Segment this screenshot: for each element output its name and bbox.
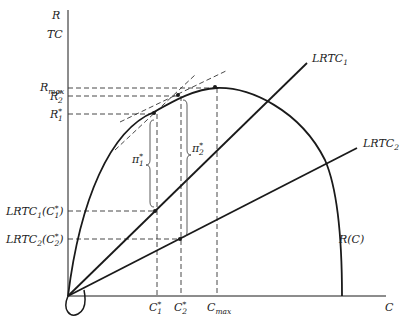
lrtc2-c2-label: LRTC2(C*2): [5, 232, 63, 248]
pi1-star-label: π*1: [131, 152, 144, 168]
c2-star-label: C*2: [174, 300, 187, 316]
y-axis-label-tc: TC: [47, 28, 63, 41]
lrtc2-line: [68, 148, 357, 296]
pi2-star-label: π*2: [191, 141, 204, 157]
cmax-label: Cmax: [207, 301, 232, 316]
lrtc1-curve-label: LRTC1: [311, 52, 348, 67]
r1-star-label: R*1: [49, 107, 63, 123]
lrtc1-c1-label: LRTC1(C*1): [5, 204, 63, 220]
lrtc1-line: [68, 63, 307, 296]
pi1-brace: [146, 120, 154, 207]
revenue-curve-label: R(C): [338, 233, 364, 246]
revenue-curve: [68, 88, 342, 296]
x-axis-label-c: C: [385, 301, 394, 314]
c1-star-label: C*1: [149, 300, 162, 316]
diagram-canvas: R TC C Rmax R*2 R*1 LRTC1(C*1) LRTC2(C*2…: [0, 0, 403, 317]
lrtc2-curve-label: LRTC2: [362, 137, 399, 152]
r2-star-label: R*2: [49, 89, 63, 105]
y-axis-label-r: R: [51, 9, 60, 22]
pi2-brace: [183, 100, 191, 237]
dashed-guides: [68, 70, 228, 296]
